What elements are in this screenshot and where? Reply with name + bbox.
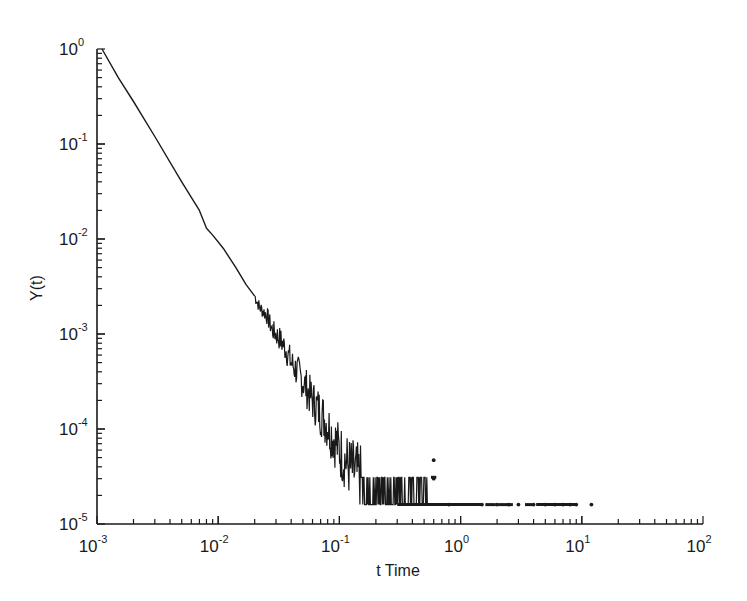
data-point [568, 503, 572, 507]
series-noise [255, 296, 442, 504]
x-tick-label: 10-3 [79, 533, 108, 556]
x-tick-label: 101 [565, 533, 590, 556]
x-tick-label: 100 [444, 533, 469, 556]
loglog-chart: 10-310-210-1100101102 10010-110-210-310-… [0, 0, 747, 601]
x-tick-label: 10-1 [321, 533, 350, 556]
data-point [432, 458, 436, 462]
data-point [507, 503, 511, 507]
series-line [102, 49, 255, 296]
data-point [574, 503, 578, 507]
x-tick-label: 10-2 [200, 533, 229, 556]
x-tick-labels: 10-310-210-1100101102 [79, 533, 712, 556]
data-point [561, 503, 565, 507]
data-point [517, 503, 521, 507]
data-point [447, 503, 451, 507]
x-axis-title: t Time [376, 562, 420, 579]
axes [97, 49, 703, 524]
y-tick-label: 10-5 [59, 511, 88, 534]
y-tick-label: 100 [59, 36, 84, 59]
data-point [543, 503, 547, 507]
y-tick-label: 10-4 [59, 416, 88, 439]
x-tick-label: 102 [686, 533, 711, 556]
data-point [532, 503, 536, 507]
axis-ticks [97, 49, 703, 524]
data-point [553, 503, 557, 507]
data-point [589, 503, 593, 507]
y-axis-title: Y(t) [28, 275, 45, 301]
plot-area [102, 49, 593, 507]
y-tick-labels: 10010-110-210-310-410-5 [59, 36, 88, 534]
data-point [495, 503, 499, 507]
y-tick-label: 10-1 [59, 131, 88, 154]
data-point [480, 503, 484, 507]
y-tick-label: 10-2 [59, 226, 88, 249]
y-tick-label: 10-3 [59, 321, 88, 344]
